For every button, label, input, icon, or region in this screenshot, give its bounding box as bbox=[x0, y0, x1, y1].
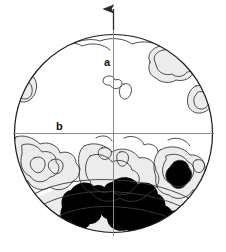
axis-label-b: b bbox=[56, 120, 63, 132]
pole-figure-chart: a b bbox=[0, 0, 226, 252]
axis-label-a: a bbox=[104, 56, 111, 68]
